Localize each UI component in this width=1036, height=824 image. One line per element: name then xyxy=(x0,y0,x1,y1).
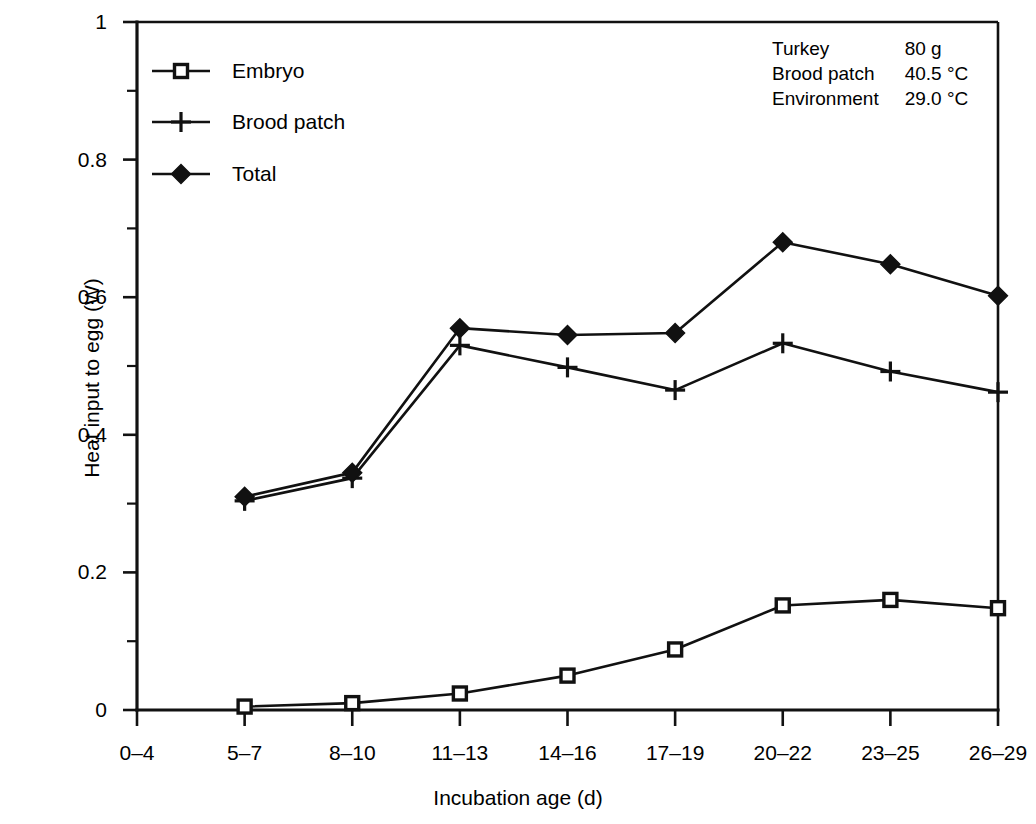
legend-label-total: Total xyxy=(232,163,276,184)
x-tick-label: 26–29 xyxy=(969,742,1027,763)
annotation-label: Turkey xyxy=(772,36,879,61)
legend-label-brood-patch: Brood patch xyxy=(232,111,345,132)
marker-plus xyxy=(558,357,578,377)
marker-open-square xyxy=(453,687,466,700)
marker-open-square xyxy=(884,593,897,606)
annotation-label: Environment xyxy=(772,86,879,111)
marker-filled-diamond xyxy=(172,165,191,184)
marker-plus xyxy=(773,333,793,353)
annotation-row: Environment29.0 °C xyxy=(772,86,968,111)
y-axis-title: Heat input to egg (W) xyxy=(80,218,104,538)
chart-canvas xyxy=(0,0,1036,824)
marker-open-square xyxy=(561,669,574,682)
annotation-row: Brood patch40.5 °C xyxy=(772,61,968,86)
annotation-value: 29.0 °C xyxy=(879,86,969,111)
marker-filled-diamond xyxy=(235,487,254,506)
legend-glyphs xyxy=(152,65,210,184)
marker-plus xyxy=(880,362,900,382)
marker-filled-diamond xyxy=(558,326,577,345)
x-tick-label: 20–22 xyxy=(754,742,812,763)
marker-open-square xyxy=(346,697,359,710)
marker-filled-diamond xyxy=(989,286,1008,305)
annotation-value: 80 g xyxy=(879,36,969,61)
annotation-label: Brood patch xyxy=(772,61,879,86)
data-series-group xyxy=(235,233,1008,713)
figure-container: 00.20.40.60.81 0–45–78–1011–1314–1617–19… xyxy=(0,0,1036,824)
marker-plus xyxy=(665,380,685,400)
marker-plus xyxy=(171,112,191,132)
y-tick-label: 0 xyxy=(7,699,107,720)
annotation-value: 40.5 °C xyxy=(879,61,969,86)
legend-label-embryo: Embryo xyxy=(232,60,304,81)
y-tick-label: 0.8 xyxy=(7,149,107,170)
y-tick-label: 0.2 xyxy=(7,561,107,582)
annotation-panel: Turkey80 gBrood patch40.5 °CEnvironment2… xyxy=(772,36,968,111)
x-tick-label: 11–13 xyxy=(431,742,488,763)
x-tick-label: 8–10 xyxy=(329,742,376,763)
marker-filled-diamond xyxy=(450,319,469,338)
marker-open-square xyxy=(669,643,682,656)
series-line-embryo xyxy=(245,600,998,707)
y-tick-label: 1 xyxy=(7,11,107,32)
x-tick-label: 5–7 xyxy=(227,742,262,763)
annotation-row: Turkey80 g xyxy=(772,36,968,61)
marker-plus xyxy=(988,382,1008,402)
marker-open-square xyxy=(175,65,188,78)
x-tick-label: 17–19 xyxy=(646,742,704,763)
marker-open-square xyxy=(776,599,789,612)
x-tick-label: 0–4 xyxy=(119,742,154,763)
x-axis-title: Incubation age (d) xyxy=(0,786,1036,810)
x-tick-label: 23–25 xyxy=(861,742,919,763)
marker-filled-diamond xyxy=(881,255,900,274)
annotation-table: Turkey80 gBrood patch40.5 °CEnvironment2… xyxy=(772,36,968,111)
x-tick-label: 14–16 xyxy=(538,742,596,763)
marker-open-square xyxy=(992,602,1005,615)
marker-open-square xyxy=(238,700,251,713)
